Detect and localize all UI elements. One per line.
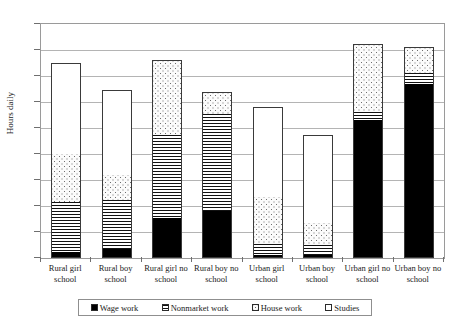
bar-segment-house-work <box>102 175 132 200</box>
bar-segment-wage-work <box>404 84 434 258</box>
bar-rural-boy-no-school <box>202 92 232 258</box>
bar-segment-wage-work <box>303 255 333 258</box>
x-axis-category-label: Urban boy noschool <box>387 263 449 284</box>
bar-segment-studies <box>303 135 333 223</box>
bar-segment-house-work <box>353 44 383 113</box>
legend-item-house-work: House work <box>252 303 302 313</box>
legend-swatch-icon <box>252 304 259 311</box>
legend-swatch-icon <box>91 304 98 311</box>
plot-area <box>40 23 445 259</box>
stacked-bar-chart: Hours daily 0123456789 Rural girlschoolR… <box>0 0 449 327</box>
x-axis-tick-mark <box>292 257 293 262</box>
bar-segment-house-work <box>303 223 333 245</box>
legend-item-wage-work: Wage work <box>91 303 139 313</box>
bar-segment-house-work <box>51 154 81 202</box>
bar-segment-house-work <box>152 60 182 134</box>
legend-item-studies: Studies <box>325 303 359 313</box>
legend-label: Nonmarket work <box>171 303 229 313</box>
bar-segment-nonmarket-work <box>152 135 182 218</box>
bar-urban-boy-no-school <box>404 47 434 258</box>
bar-segment-nonmarket-work <box>303 245 333 255</box>
x-axis-tick-mark <box>443 257 444 262</box>
bar-urban-girl-no-school <box>353 44 383 258</box>
legend-label: Wage work <box>100 303 139 313</box>
x-axis-category-label-line: school <box>387 274 449 285</box>
bar-rural-girl-school <box>51 63 81 258</box>
bar-segment-wage-work <box>253 255 283 258</box>
gridline <box>41 76 444 77</box>
bar-segment-house-work <box>404 47 434 73</box>
x-axis-tick-mark <box>242 257 243 262</box>
bar-rural-boy-school <box>102 90 132 258</box>
chart-legend: Wage workNonmarket workHouse workStudies <box>78 299 372 316</box>
bar-segment-nonmarket-work <box>51 202 81 251</box>
bar-segment-house-work <box>202 92 232 114</box>
bar-segment-wage-work <box>202 211 232 258</box>
x-axis-tick-mark <box>191 257 192 262</box>
x-axis-tick-mark <box>393 257 394 262</box>
bar-segment-studies <box>253 107 283 197</box>
bar-segment-nonmarket-work <box>202 114 232 212</box>
bar-urban-boy-school <box>303 135 333 258</box>
bar-urban-girl-school <box>253 107 283 258</box>
x-axis-tick-mark <box>141 257 142 262</box>
bar-segment-wage-work <box>51 252 81 259</box>
bar-segment-nonmarket-work <box>404 73 434 83</box>
plot-inner <box>41 24 444 258</box>
legend-swatch-icon <box>162 304 169 311</box>
legend-item-nonmarket-work: Nonmarket work <box>162 303 229 313</box>
gridline <box>41 50 444 51</box>
x-axis-category-label-line: Urban boy no <box>387 263 449 274</box>
legend-label: Studies <box>334 303 359 313</box>
y-axis-title: Hours daily <box>5 73 15 153</box>
bar-segment-wage-work <box>102 249 132 258</box>
bar-segment-nonmarket-work <box>353 112 383 120</box>
bar-segment-house-work <box>253 197 283 244</box>
bar-segment-wage-work <box>353 120 383 258</box>
bar-rural-girl-no-school <box>152 60 182 258</box>
bar-segment-studies <box>102 90 132 175</box>
bar-segment-wage-work <box>152 218 182 258</box>
legend-swatch-icon <box>325 304 332 311</box>
bar-segment-nonmarket-work <box>102 200 132 249</box>
bar-segment-nonmarket-work <box>253 244 283 256</box>
legend-label: House work <box>261 303 302 313</box>
x-axis-tick-mark <box>90 257 91 262</box>
x-axis-tick-mark <box>40 257 41 262</box>
x-axis-tick-mark <box>342 257 343 262</box>
bar-segment-studies <box>51 63 81 154</box>
